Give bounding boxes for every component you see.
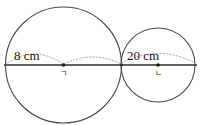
left-diameter-dotted-arc xyxy=(64,57,121,64)
left-circle-measure-label: 8 cm xyxy=(14,49,40,62)
tangency-point-marker xyxy=(120,63,123,66)
geometry-figure: 8 cm 20 cm ㄱ ㄴ xyxy=(0,0,201,125)
right-circle-measure-label: 20 cm xyxy=(127,49,159,62)
right-circle-center-point xyxy=(156,63,160,67)
right-circle-center-label: ㄴ xyxy=(155,70,162,78)
left-circle-center-point xyxy=(62,63,66,67)
left-circle-center-label: ㄱ xyxy=(60,70,67,78)
